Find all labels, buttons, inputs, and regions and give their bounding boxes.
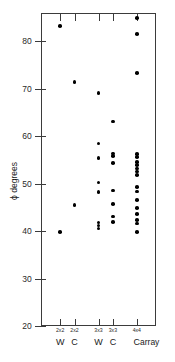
x-label-type-3x3-W: W bbox=[94, 337, 103, 347]
data-point bbox=[111, 215, 115, 219]
x-label-size-2x2-W: 2x2 bbox=[56, 327, 64, 333]
y-tick-label-80: 80 bbox=[22, 36, 32, 46]
x-tick-top-3 bbox=[113, 14, 114, 21]
x-tick-bottom-2 bbox=[99, 319, 100, 326]
data-point bbox=[135, 230, 139, 234]
x-tick-bottom-1 bbox=[75, 319, 76, 326]
data-point bbox=[135, 198, 139, 202]
x-label-size-4x4-C: 4x4 bbox=[133, 327, 141, 333]
x-axis-title: array bbox=[140, 337, 159, 347]
data-point bbox=[58, 230, 62, 234]
x-label-size-3x3-W: 3x3 bbox=[94, 327, 102, 333]
y-tick-label-40: 40 bbox=[22, 226, 32, 236]
y-tick-label-60: 60 bbox=[22, 131, 32, 141]
x-label-type-3x3-C: C bbox=[110, 337, 117, 347]
data-point bbox=[135, 173, 139, 177]
y-tick-inner-30 bbox=[41, 279, 46, 280]
data-point bbox=[58, 24, 62, 28]
data-point bbox=[135, 155, 139, 159]
plot-frame bbox=[41, 13, 156, 326]
data-point bbox=[135, 71, 139, 75]
y-tick-inner-50 bbox=[41, 184, 46, 185]
y-tick-inner-60 bbox=[41, 136, 46, 137]
y-tick-label-20: 20 bbox=[22, 321, 32, 331]
x-tick-top-1 bbox=[75, 14, 76, 21]
x-tick-bottom-3 bbox=[113, 319, 114, 326]
x-tick-bottom-0 bbox=[60, 319, 61, 326]
data-point bbox=[111, 120, 115, 124]
x-tick-bottom-4 bbox=[137, 319, 138, 326]
x-tick-top-2 bbox=[99, 14, 100, 21]
data-point bbox=[111, 161, 115, 165]
scatter-plot-figure: ϕ degrees 80706050403020 2x2W2x2C3x3W3x3… bbox=[0, 0, 175, 362]
x-tick-top-0 bbox=[60, 14, 61, 21]
x-label-type-2x2-C: C bbox=[71, 337, 78, 347]
data-point bbox=[111, 202, 115, 206]
y-tick-label-50: 50 bbox=[22, 179, 32, 189]
data-point bbox=[135, 212, 139, 216]
data-point bbox=[135, 206, 139, 210]
x-label-size-2x2-C: 2x2 bbox=[70, 327, 78, 333]
data-point bbox=[135, 185, 139, 189]
y-tick-label-30: 30 bbox=[22, 274, 32, 284]
data-point bbox=[135, 32, 139, 36]
y-axis-title: ϕ degrees bbox=[9, 146, 19, 216]
x-label-size-3x3-C: 3x3 bbox=[109, 327, 117, 333]
x-label-type-2x2-W: W bbox=[56, 337, 65, 347]
data-point bbox=[135, 190, 139, 194]
y-tick-inner-20 bbox=[41, 326, 46, 327]
y-tick-inner-80 bbox=[41, 41, 46, 42]
y-tick-inner-70 bbox=[41, 89, 46, 90]
data-point bbox=[111, 154, 115, 158]
data-point bbox=[135, 16, 139, 20]
y-tick-inner-40 bbox=[41, 231, 46, 232]
data-point bbox=[111, 189, 115, 193]
data-point bbox=[111, 220, 115, 224]
y-tick-label-70: 70 bbox=[22, 84, 32, 94]
data-point bbox=[135, 222, 139, 226]
